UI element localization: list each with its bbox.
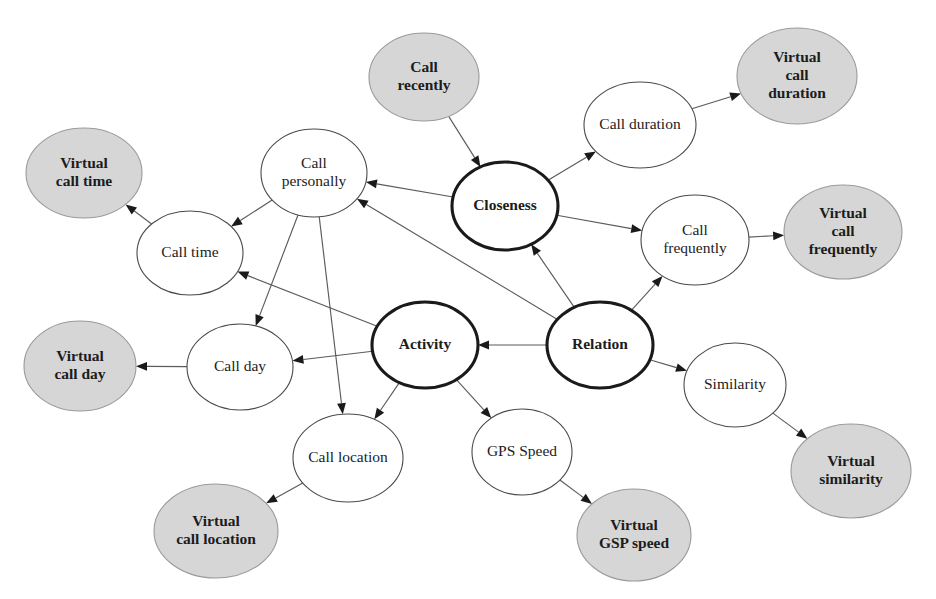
arrowhead-icon bbox=[729, 93, 741, 101]
edge-call_duration-to-virtual_call_duration bbox=[692, 93, 741, 109]
node-label-line: Call location bbox=[308, 448, 388, 465]
node-label-line: call location bbox=[176, 530, 256, 547]
node-label-line: call bbox=[785, 66, 809, 83]
node-virtual_call_day[interactable]: Virtualcall day bbox=[24, 321, 136, 411]
edge-line bbox=[537, 253, 574, 307]
node-label-line: duration bbox=[768, 84, 826, 101]
arrowhead-icon bbox=[796, 429, 807, 439]
arrowhead-icon bbox=[675, 363, 687, 371]
arrowhead-icon bbox=[374, 408, 384, 420]
node-virtual_call_location[interactable]: Virtualcall location bbox=[154, 484, 278, 578]
edge-call_personally-to-call_location bbox=[319, 217, 346, 414]
node-label-line: Virtual bbox=[610, 516, 658, 533]
node-label-line: GPS Speed bbox=[487, 442, 557, 459]
edge-call_time-to-virtual_call_time bbox=[126, 204, 152, 224]
arrowhead-icon bbox=[337, 403, 346, 414]
node-label-line: Call bbox=[410, 58, 438, 75]
edge-call_frequently-to-virtual_call_frequently bbox=[749, 231, 784, 240]
node-virtual_gsp_speed[interactable]: VirtualGSP speed bbox=[577, 489, 691, 581]
edge-relation-to-call_frequently bbox=[631, 276, 662, 310]
edge-line bbox=[240, 200, 272, 221]
arrowhead-icon bbox=[366, 180, 378, 189]
edge-call_personally-to-call_time bbox=[231, 200, 272, 226]
node-label-line: Closeness bbox=[473, 196, 537, 213]
node-label-line: Relation bbox=[572, 335, 628, 352]
edge-closeness-to-call_frequently bbox=[557, 215, 642, 233]
edges-layer bbox=[126, 93, 808, 504]
node-label-line: Virtual bbox=[56, 347, 104, 364]
edge-line bbox=[303, 351, 372, 359]
edge-gps_speed-to-virtual_gsp_speed bbox=[560, 480, 592, 504]
edge-line bbox=[631, 284, 655, 310]
node-label-line: frequently bbox=[663, 239, 727, 256]
node-label-similarity: Similarity bbox=[704, 375, 766, 392]
node-label-line: Activity bbox=[399, 335, 452, 352]
node-label-line: Virtual bbox=[819, 204, 867, 221]
node-label-line: similarity bbox=[819, 470, 883, 487]
edge-call_day-to-virtual_call_day bbox=[136, 362, 187, 371]
node-label-activity: Activity bbox=[399, 335, 452, 352]
arrowhead-icon bbox=[531, 244, 541, 256]
edge-line bbox=[456, 380, 483, 410]
edge-line bbox=[548, 157, 586, 180]
node-closeness[interactable]: Closeness bbox=[452, 162, 558, 250]
edge-line bbox=[381, 383, 400, 411]
edge-activity-to-call_location bbox=[374, 383, 399, 420]
node-call_time[interactable]: Call time bbox=[137, 211, 243, 295]
edge-line bbox=[749, 236, 773, 237]
arrowhead-icon bbox=[581, 494, 592, 504]
node-gps_speed[interactable]: GPS Speed bbox=[472, 409, 572, 495]
arrowhead-icon bbox=[238, 272, 250, 280]
node-label-line: Virtual bbox=[827, 452, 875, 469]
arrowhead-icon bbox=[773, 231, 784, 240]
arrowhead-icon bbox=[126, 204, 137, 214]
node-relation[interactable]: Relation bbox=[547, 302, 653, 388]
node-call_day[interactable]: Call day bbox=[187, 324, 293, 410]
node-call_duration[interactable]: Call duration bbox=[584, 82, 696, 168]
node-call_personally[interactable]: Callpersonally bbox=[261, 129, 367, 217]
arrowhead-icon bbox=[631, 224, 643, 233]
node-label-line: Virtual bbox=[192, 512, 240, 529]
arrowhead-icon bbox=[266, 494, 278, 503]
node-call_recently[interactable]: Callrecently bbox=[369, 33, 479, 121]
concept-graph-diagram: CallrecentlyCall durationVirtualcalldura… bbox=[0, 0, 936, 599]
edge-call_location-to-virtual_call_location bbox=[266, 483, 303, 503]
edge-line bbox=[650, 360, 677, 368]
edge-line bbox=[319, 217, 341, 403]
node-label-line: frequently bbox=[809, 240, 878, 257]
node-label-gps_speed: GPS Speed bbox=[487, 442, 557, 459]
edge-line bbox=[377, 184, 453, 197]
nodes-layer: CallrecentlyCall durationVirtualcalldura… bbox=[24, 28, 911, 581]
node-virtual_similarity[interactable]: Virtualsimilarity bbox=[791, 424, 911, 518]
node-label-relation: Relation bbox=[572, 335, 628, 352]
node-label-line: call bbox=[831, 222, 855, 239]
edge-relation-to-closeness bbox=[531, 244, 574, 307]
edge-line bbox=[449, 116, 475, 157]
edge-line bbox=[134, 211, 151, 224]
node-virtual_call_frequently[interactable]: Virtualcallfrequently bbox=[784, 185, 902, 279]
node-label-call_day: Call day bbox=[214, 357, 266, 374]
arrowhead-icon bbox=[471, 155, 481, 167]
node-virtual_call_duration[interactable]: Virtualcallduration bbox=[737, 28, 857, 124]
node-label-line: Call day bbox=[214, 357, 266, 374]
node-activity[interactable]: Activity bbox=[372, 302, 478, 388]
edge-call_recently-to-closeness bbox=[449, 116, 481, 167]
edge-relation-to-activity bbox=[478, 341, 547, 350]
edge-call_personally-to-call_day bbox=[255, 215, 298, 326]
node-call_location[interactable]: Call location bbox=[293, 414, 403, 502]
node-call_frequently[interactable]: Callfrequently bbox=[641, 195, 749, 285]
node-label-call_location: Call location bbox=[308, 448, 388, 465]
edge-line bbox=[248, 276, 378, 327]
node-label-virtual_call_time: Virtualcall time bbox=[56, 154, 112, 189]
node-label-line: Call duration bbox=[599, 115, 681, 132]
node-label-closeness: Closeness bbox=[473, 196, 537, 213]
node-label-line: recently bbox=[397, 76, 450, 93]
node-virtual_call_time[interactable]: Virtualcall time bbox=[26, 128, 142, 218]
node-label-virtual_similarity: Virtualsimilarity bbox=[819, 452, 883, 487]
arrowhead-icon bbox=[357, 199, 369, 208]
edge-activity-to-gps_speed bbox=[456, 380, 491, 418]
arrowhead-icon bbox=[584, 151, 596, 160]
node-similarity[interactable]: Similarity bbox=[684, 343, 786, 427]
edge-closeness-to-call_personally bbox=[366, 180, 453, 198]
node-label-line: call time bbox=[56, 172, 112, 189]
